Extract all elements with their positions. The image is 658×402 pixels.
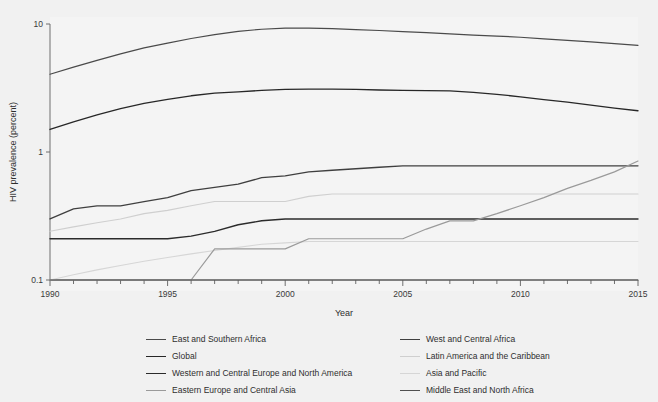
chart-plot-background [50, 17, 638, 291]
legend-item-label: East and Southern Africa [172, 331, 266, 348]
legend-item[interactable]: Asia and Pacific [400, 365, 650, 382]
legend-item[interactable]: Latin America and the Caribbean [400, 348, 650, 365]
figure-container: 0.1110199019952000200520102015 YearHIV p… [0, 0, 658, 402]
line-chart: 0.1110199019952000200520102015 YearHIV p… [0, 13, 658, 333]
legend-item[interactable]: West and Central Africa [400, 331, 650, 348]
legend-swatch-icon [400, 373, 420, 374]
legend-swatch-icon [400, 339, 420, 340]
y-tick-label: 0.1 [31, 275, 43, 285]
legend-item-label: Latin America and the Caribbean [426, 348, 550, 365]
legend-item-label: Middle East and North Africa [426, 382, 534, 399]
figure-caption-strip [0, 0, 658, 13]
legend-item-label: Global [172, 348, 197, 365]
x-axis-title: Year [335, 308, 353, 318]
y-tick-label: 10 [34, 19, 44, 29]
legend-item-label: West and Central Africa [426, 331, 515, 348]
legend-item-label: Eastern Europe and Central Asia [172, 382, 296, 399]
x-tick-label: 2015 [629, 289, 648, 299]
legend-swatch-icon [146, 390, 166, 391]
legend-item-label: Western and Central Europe and North Ame… [172, 365, 352, 382]
legend-swatch-icon [400, 390, 420, 391]
figure-caption-text [4, 3, 26, 10]
x-tick-label: 1990 [41, 289, 60, 299]
legend-swatch-icon [400, 356, 420, 357]
x-tick-label: 2005 [393, 289, 412, 299]
legend-item[interactable]: Middle East and North Africa [400, 382, 650, 399]
x-tick-label: 2000 [276, 289, 295, 299]
legend-item-label: Asia and Pacific [426, 365, 486, 382]
x-tick-label: 1995 [158, 289, 177, 299]
legend-column-right: West and Central AfricaLatin America and… [400, 331, 650, 399]
plot-area: 0.1110199019952000200520102015 YearHIV p… [0, 13, 658, 333]
chart-legend: East and Southern AfricaGlobalWestern an… [0, 331, 658, 402]
y-axis-title: HIV prevalence (percent) [8, 102, 18, 202]
legend-swatch-icon [146, 373, 166, 374]
legend-swatch-icon [146, 356, 166, 357]
x-tick-label: 2010 [511, 289, 530, 299]
y-tick-label: 1 [38, 147, 43, 157]
legend-swatch-icon [146, 339, 166, 340]
